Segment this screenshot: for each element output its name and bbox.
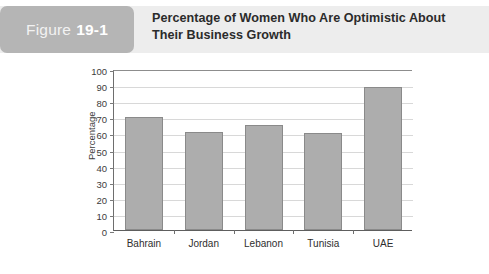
figure-number-badge: Figure 19-1 [0,6,134,53]
y-axis-tick [110,216,114,217]
x-axis-label-bahrain: Bahrain [127,238,161,249]
y-axis-label: 40 [96,162,107,173]
bar-bahrain [125,117,163,230]
bar-uae [364,87,402,230]
x-axis-tick [293,230,294,234]
figure-number-label: 19-1 [76,21,108,39]
figure-word-label: Figure [26,21,71,39]
y-axis-label: 20 [96,194,107,205]
y-axis-label: 80 [96,98,107,109]
x-axis-label-uae: UAE [373,238,394,249]
x-axis-tick [353,230,354,234]
y-axis-tick [110,103,114,104]
y-axis-label: 60 [96,130,107,141]
y-axis-tick [110,152,114,153]
y-axis-label: 30 [96,178,107,189]
figure-header: Figure 19-1 Percentage of Women Who Are … [0,6,489,53]
bar-tunisia [304,133,342,230]
y-axis-label: 90 [96,82,107,93]
y-axis-tick [110,71,114,72]
chart-container: Percentage 0102030405060708090100Bahrain… [0,53,489,274]
y-axis-tick [110,119,114,120]
x-axis-tick [174,230,175,234]
y-axis-title: Percentage [86,111,97,160]
figure-title: Percentage of Women Who Are Optimistic A… [134,6,489,44]
bar-lebanon [245,125,283,230]
y-axis-tick [110,135,114,136]
y-axis-tick [110,200,114,201]
y-axis-tick [110,87,114,88]
x-axis-tick [234,230,235,234]
y-axis-label: 50 [96,146,107,157]
y-axis-tick [110,184,114,185]
y-axis-label: 0 [102,227,107,238]
x-axis-label-lebanon: Lebanon [244,238,283,249]
y-axis-tick [110,232,114,233]
x-axis-label-tunisia: Tunisia [307,238,339,249]
y-axis-label: 70 [96,114,107,125]
y-axis-label: 100 [91,66,107,77]
plot-area: 0102030405060708090100BahrainJordanLeban… [113,70,412,231]
x-axis-label-jordan: Jordan [188,238,219,249]
y-axis-label: 10 [96,210,107,221]
y-axis-tick [110,168,114,169]
bar-jordan [185,132,223,230]
